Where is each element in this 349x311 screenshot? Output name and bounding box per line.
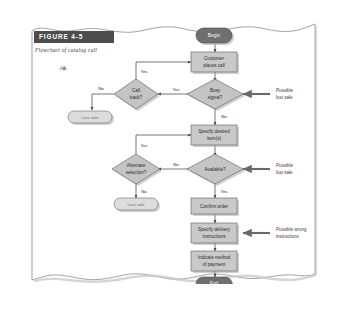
figure-screenshot: FIGURE 4-5 Flowchart of catalog call ❧ xyxy=(0,0,349,311)
node-customer-places-call: Customer places call xyxy=(191,52,239,74)
annotation-1-line-1: Possible xyxy=(276,88,294,93)
node-places-label-1: Customer xyxy=(204,56,224,61)
node-end: End xyxy=(196,277,234,284)
annotation-3-line-1: Possible wrong xyxy=(276,227,307,232)
node-lost-sale-1-label: Lost sale xyxy=(81,115,99,120)
node-lost-sale-2: Lost sale xyxy=(114,198,160,212)
node-confirm-order: Confirm order xyxy=(191,198,239,216)
edge-label-callback-no: No xyxy=(98,86,104,91)
node-begin: Begin xyxy=(196,28,234,45)
node-begin-label: Begin xyxy=(208,33,221,38)
node-alternate-label-1: Alternate xyxy=(127,163,146,168)
node-payment-label-2: of payment xyxy=(203,262,226,267)
edge-label-busy-no: No xyxy=(221,114,227,119)
edge-label-available-yes: Yes xyxy=(220,189,228,194)
node-lost-sale-1: Lost sale xyxy=(68,111,114,125)
edge-label-callback-yes: Yes xyxy=(140,69,148,74)
node-busy-signal: Busy signal? xyxy=(187,79,245,111)
annotation-1-line-2: lost sale xyxy=(276,95,293,100)
node-callback-label-1: Call xyxy=(132,88,140,93)
annotation-arrows xyxy=(243,94,270,233)
node-available: Available? xyxy=(187,154,245,186)
annotation-possible-wrong-instructions: Possible wrong instructions xyxy=(276,227,307,239)
node-specify-delivery: Specify delivery instructions xyxy=(191,223,239,245)
node-alternate-selection: Alternate selection? xyxy=(112,154,162,186)
node-specify-items: Specify desired item(s) xyxy=(191,125,239,147)
annotation-possible-lost-sale-1: Possible lost sale xyxy=(276,88,294,100)
edge-label-available-no: No xyxy=(173,162,179,167)
torn-page-sheet: FIGURE 4-5 Flowchart of catalog call ❧ xyxy=(30,22,318,284)
node-indicate-payment: Indicate method of payment xyxy=(191,251,239,273)
flowchart-canvas: Begin Customer places call Busy signal? xyxy=(30,22,318,284)
annotation-3-line-2: instructions xyxy=(276,234,300,239)
node-available-label: Available? xyxy=(204,167,226,172)
edge-label-alternate-yes: Yes xyxy=(140,143,148,148)
node-end-label: End xyxy=(210,281,219,284)
node-delivery-label-1: Specify delivery xyxy=(198,227,231,232)
node-confirm-label: Confirm order xyxy=(200,204,229,209)
node-alternate-label-2: selection? xyxy=(126,170,147,175)
annotation-possible-lost-sale-2: Possible lost sale xyxy=(276,163,294,175)
node-call-back: Call back? xyxy=(114,79,160,111)
edge-label-busy-yes: Yes xyxy=(172,87,180,92)
node-specify-label-1: Specify desired xyxy=(198,129,230,134)
node-busy-label-2: signal? xyxy=(208,95,223,100)
node-lost-sale-2-label: Lost sale xyxy=(127,202,145,207)
annotation-2-line-2: lost sale xyxy=(276,170,293,175)
edge-label-alternate-no: No xyxy=(141,189,147,194)
node-places-label-2: places call xyxy=(203,63,224,68)
annotation-2-line-1: Possible xyxy=(276,163,294,168)
node-busy-label-1: Busy xyxy=(210,88,221,93)
node-delivery-label-2: instructions xyxy=(202,234,226,239)
node-payment-label-1: Indicate method xyxy=(198,255,231,260)
node-specify-label-2: item(s) xyxy=(207,136,222,141)
node-callback-label-2: back? xyxy=(130,95,143,100)
